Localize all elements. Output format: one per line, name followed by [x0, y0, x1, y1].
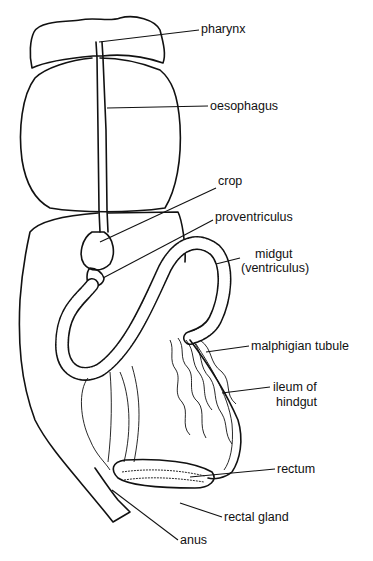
- label-midgut: midgut: [255, 247, 293, 261]
- label-oesophagus: oesophagus: [210, 99, 278, 113]
- label-ileum: ileum of: [273, 380, 317, 394]
- digestive-system-drawing: [0, 0, 373, 561]
- label-ventriculus: (ventriculus): [241, 261, 309, 275]
- ileum-tube: [190, 340, 241, 479]
- label-pharynx: pharynx: [201, 22, 245, 36]
- label-malphigian-tubule: malphigian tubule: [251, 339, 349, 353]
- label-crop: crop: [218, 174, 242, 188]
- label-anus: anus: [180, 533, 207, 547]
- label-hindgut: hindgut: [276, 395, 317, 409]
- thorax-outline: [21, 58, 181, 212]
- label-proventriculus: proventriculus: [215, 210, 293, 224]
- label-rectal-gland: rectal gland: [224, 510, 289, 524]
- rectum-shape: [113, 460, 214, 489]
- oesophagus-tube: [96, 42, 108, 232]
- label-rectum: rectum: [277, 462, 315, 476]
